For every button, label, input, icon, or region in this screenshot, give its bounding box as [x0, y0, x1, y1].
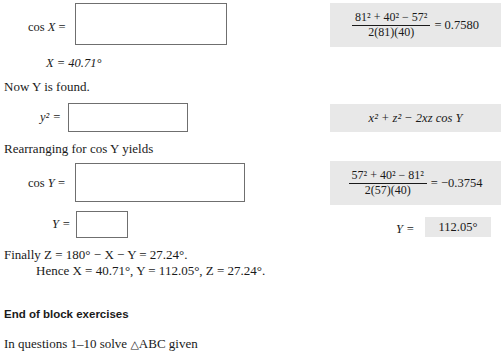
cos-x-solution-equals: = 0.7580 [430, 18, 479, 33]
transition-text: Now Y is found. [4, 79, 90, 95]
y-solution-label: Y = [396, 222, 415, 237]
triangle-icon: △ [130, 338, 138, 351]
cos-y-solution-equals: = −0.3754 [427, 176, 483, 191]
cos-x-label-prefix: cos [28, 20, 45, 34]
cos-y-solution-fraction: 57² + 40² − 81² 2(57)(40) [349, 169, 427, 198]
cos-y-solution-denominator: 2(57)(40) [349, 183, 427, 198]
cos-y-solution-numerator: 57² + 40² − 81² [349, 169, 427, 183]
cos-x-label-eq: = [59, 20, 66, 34]
cos-x-solution-fraction: 81² + 40² − 57² 2(81)(40) [352, 11, 430, 40]
y-squared-solution-text: x² + z² − 2xz cos Y [369, 111, 463, 126]
questions-intro-pre: In questions 1–10 solve [4, 336, 130, 351]
cos-y-label-var: Y [48, 176, 55, 190]
rearrange-text: Rearranging for cos Y yields [4, 141, 153, 157]
textbook-page: cos X = 81² + 40² − 57² 2(81)(40) = 0.75… [0, 0, 501, 356]
cos-y-label-eq: = [58, 176, 65, 190]
end-of-block-heading: End of block exercises [4, 308, 129, 320]
cos-y-solution-panel: 57² + 40² − 81² 2(57)(40) = −0.3754 [330, 161, 501, 205]
y-value-answer-box[interactable] [76, 211, 128, 238]
finally-line: Finally Z = 180° − X − Y = 27.24°. [4, 247, 188, 263]
cos-x-solution-numerator: 81² + 40² − 57² [352, 11, 430, 25]
cos-x-label-var: X [48, 20, 56, 34]
hence-line: Hence X = 40.71°, Y = 112.05°, Z = 27.24… [36, 263, 265, 279]
questions-intro: In questions 1–10 solve △ABC given [4, 336, 198, 352]
y-solution-panel: 112.05° [425, 217, 491, 237]
cos-x-answer-box[interactable] [75, 3, 227, 45]
y-squared-solution-panel: x² + z² − 2xz cos Y [330, 104, 501, 132]
y-solution-value: 112.05° [439, 220, 478, 235]
cos-y-answer-box[interactable] [75, 163, 245, 202]
y-squared-label: y² = [40, 110, 61, 125]
cos-y-label-prefix: cos [28, 176, 45, 190]
x-result-line: X = 40.71° [46, 56, 101, 71]
cos-x-solution-denominator: 2(81)(40) [352, 25, 430, 40]
cos-y-label: cos Y = [28, 176, 65, 191]
cos-x-solution-panel: 81² + 40² − 57² 2(81)(40) = 0.7580 [330, 3, 501, 47]
y-squared-answer-box[interactable] [68, 103, 188, 132]
y-value-label: Y = [52, 217, 71, 232]
questions-intro-post: ABC given [139, 336, 198, 351]
cos-x-label: cos X = [28, 20, 66, 35]
